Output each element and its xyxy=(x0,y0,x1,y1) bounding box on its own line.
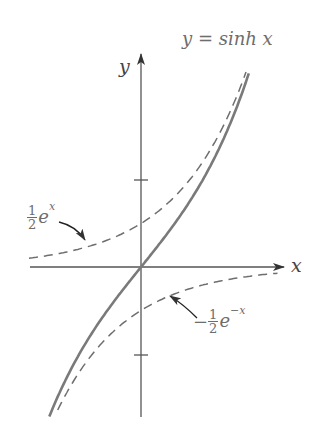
fraction-half: 12 xyxy=(27,204,37,231)
half-exp-curve xyxy=(29,72,246,258)
fraction-half: 12 xyxy=(208,308,218,335)
frac-num: 1 xyxy=(208,308,218,322)
exponent: x xyxy=(49,200,55,213)
y-axis-label: y xyxy=(119,57,130,76)
half-exp-label: 12ex xyxy=(27,204,55,231)
sinh-curve xyxy=(49,73,249,416)
frac-den: 2 xyxy=(208,322,218,335)
x-axis-label: x xyxy=(291,256,302,275)
sinh-title-text: y = sinh x xyxy=(182,28,273,49)
minus-sign: − xyxy=(193,311,208,332)
frac-num: 1 xyxy=(27,204,37,218)
sinh-title-label: y = sinh x xyxy=(182,30,273,48)
frac-den: 2 xyxy=(27,218,37,231)
pointer-arrow-half-exp xyxy=(59,222,85,240)
base-e: e xyxy=(219,310,230,331)
base-e: e xyxy=(38,206,49,227)
exponent: −x xyxy=(230,304,245,317)
neg-half-exp-neg-curve xyxy=(58,273,278,410)
neg-half-exp-label: −12e−x xyxy=(193,308,245,335)
